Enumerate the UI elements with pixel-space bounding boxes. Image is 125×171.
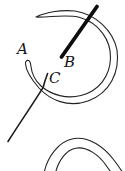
point-label-b: B bbox=[64, 55, 75, 70]
partial-band-outer-arc bbox=[45, 138, 122, 171]
point-label-c: C bbox=[49, 71, 60, 86]
thick-rod-line bbox=[62, 7, 98, 58]
point-label-a: A bbox=[17, 42, 28, 57]
partial-band-inner-arc bbox=[56, 148, 110, 171]
thin-pin-line bbox=[8, 74, 48, 142]
diagram-canvas bbox=[0, 0, 125, 171]
diagram: A B C bbox=[0, 0, 125, 171]
